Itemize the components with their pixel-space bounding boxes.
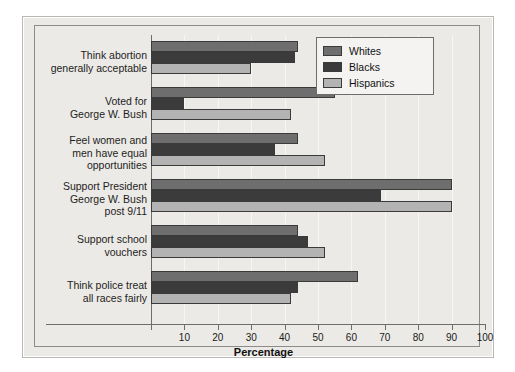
bar-hispanics [151, 109, 291, 120]
x-tick-80 [418, 324, 419, 330]
chart-outer-frame: Think abortiongenerally acceptableVoted … [22, 16, 494, 358]
legend-item-whites: Whites [323, 43, 427, 59]
x-tick-0 [151, 324, 152, 330]
bar-whites [151, 41, 298, 52]
category-label-line: men have equal [43, 147, 147, 160]
bar-group: Feel women andmen have equalopportunitie… [35, 130, 481, 176]
category-label-line: all races fairly [43, 291, 147, 304]
category-label-line: Support school [43, 233, 147, 246]
bar-whites [151, 179, 452, 190]
chart-inner-frame: Think abortiongenerally acceptableVoted … [34, 25, 480, 347]
category-label: Support schoolvouchers [43, 233, 147, 258]
x-tick-label-60: 60 [336, 332, 366, 343]
category-label: Think abortiongenerally acceptable [43, 49, 147, 74]
bar-hispanics [151, 247, 325, 258]
bar-group: Think police treatall races fairly [35, 268, 481, 314]
category-label-line: generally acceptable [43, 61, 147, 74]
category-label-line: Feel women and [43, 134, 147, 147]
legend-item-hispanics: Hispanics [323, 75, 427, 91]
bar-whites [151, 87, 335, 98]
bars-container [151, 179, 485, 219]
bar-group: Support PresidentGeorge W. Bushpost 9/11 [35, 176, 481, 222]
bar-hispanics [151, 201, 452, 212]
legend-label-whites: Whites [349, 45, 381, 57]
x-tick-50 [318, 324, 319, 330]
legend-swatch-whites [323, 46, 342, 56]
category-label-line: Think abortion [43, 49, 147, 62]
category-label: Feel women andmen have equalopportunitie… [43, 134, 147, 172]
bars-container [151, 133, 485, 173]
x-tick-label-70: 70 [370, 332, 400, 343]
bar-blacks [151, 236, 308, 247]
category-label-line: opportunities [43, 159, 147, 172]
bar-whites [151, 271, 358, 282]
chart-figure: Think abortiongenerally acceptableVoted … [0, 0, 515, 372]
bar-hispanics [151, 63, 251, 74]
bar-blacks [151, 282, 298, 293]
x-tick-20 [218, 324, 219, 330]
x-tick-label-50: 50 [303, 332, 333, 343]
legend-label-blacks: Blacks [349, 61, 380, 73]
category-label-line: Support President [43, 180, 147, 193]
bar-blacks [151, 144, 275, 155]
x-tick-label-20: 20 [203, 332, 233, 343]
category-label-line: Think police treat [43, 279, 147, 292]
x-tick-label-30: 30 [236, 332, 266, 343]
bar-blacks [151, 98, 184, 109]
category-label-line: vouchers [43, 245, 147, 258]
legend-swatch-blacks [323, 62, 342, 72]
x-tick-100 [485, 324, 486, 330]
x-tick-label-10: 10 [169, 332, 199, 343]
x-tick-label-90: 90 [437, 332, 467, 343]
x-tick-label-40: 40 [270, 332, 300, 343]
category-label-line: post 9/11 [43, 205, 147, 218]
category-label-line: George W. Bush [43, 193, 147, 206]
bar-hispanics [151, 155, 325, 166]
x-tick-10 [184, 324, 185, 330]
x-axis-label: Percentage [35, 346, 492, 358]
legend-swatch-hispanics [323, 78, 342, 88]
x-tick-60 [351, 324, 352, 330]
bar-whites [151, 225, 298, 236]
category-label: Support PresidentGeorge W. Bushpost 9/11 [43, 180, 147, 218]
chart-legend: Whites Blacks Hispanics [316, 37, 434, 95]
bar-group: Support schoolvouchers [35, 222, 481, 268]
bar-blacks [151, 190, 381, 201]
x-tick-label-100: 100 [470, 332, 500, 343]
x-tick-30 [251, 324, 252, 330]
legend-item-blacks: Blacks [323, 59, 427, 75]
legend-label-hispanics: Hispanics [349, 77, 395, 89]
x-tick-40 [285, 324, 286, 330]
bar-blacks [151, 52, 295, 63]
category-axis-line [46, 324, 486, 325]
bar-whites [151, 133, 298, 144]
category-label: Voted forGeorge W. Bush [43, 95, 147, 120]
x-tick-90 [452, 324, 453, 330]
bar-hispanics [151, 293, 291, 304]
category-label: Think police treatall races fairly [43, 279, 147, 304]
category-label-line: Voted for [43, 95, 147, 108]
x-tick-label-80: 80 [403, 332, 433, 343]
bars-container [151, 271, 485, 311]
bars-container [151, 225, 485, 265]
x-tick-70 [385, 324, 386, 330]
category-label-line: George W. Bush [43, 107, 147, 120]
